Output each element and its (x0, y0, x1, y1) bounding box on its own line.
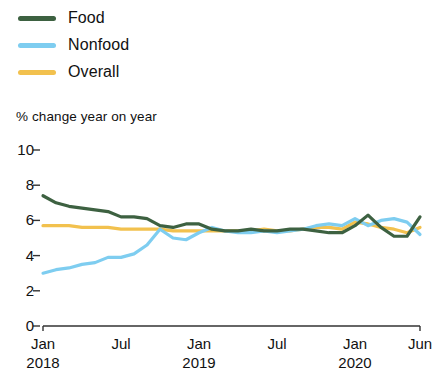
series-line-food (43, 196, 420, 236)
y-axis-tick-label: 10 (8, 142, 34, 157)
x-axis-tick-label: Jan (169, 336, 229, 352)
x-axis-tick-label: Jun (390, 336, 433, 352)
x-axis-year-label: 2020 (325, 355, 385, 371)
x-axis-tick-label: Jul (247, 336, 307, 352)
x-axis-tick-label: Jul (91, 336, 151, 352)
x-axis-tick-label: Jan (13, 336, 73, 352)
chart-canvas (0, 0, 433, 378)
x-axis-year-label: 2019 (169, 355, 229, 371)
x-axis-tick-label: Jan (325, 336, 385, 352)
x-axis-year-label: 2018 (13, 355, 73, 371)
y-axis-tick-label: 8 (8, 177, 34, 192)
y-axis-tick-label: 0 (8, 318, 34, 333)
line-chart: 0246810 Jan2018JulJan2019JulJan2020Jun (0, 0, 433, 378)
y-axis-tick-label: 2 (8, 283, 34, 298)
y-axis-tick-label: 4 (8, 248, 34, 263)
y-axis-tick-label: 6 (8, 212, 34, 227)
